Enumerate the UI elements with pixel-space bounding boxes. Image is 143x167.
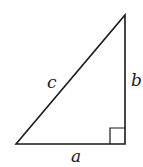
vertical-leg-label: b: [131, 72, 142, 89]
triangle-shape: [16, 15, 125, 144]
right-triangle-figure: [0, 0, 143, 167]
horizontal-leg-label: a: [71, 148, 81, 165]
hypotenuse-label: c: [47, 74, 57, 91]
right-angle-marker: [110, 128, 125, 144]
